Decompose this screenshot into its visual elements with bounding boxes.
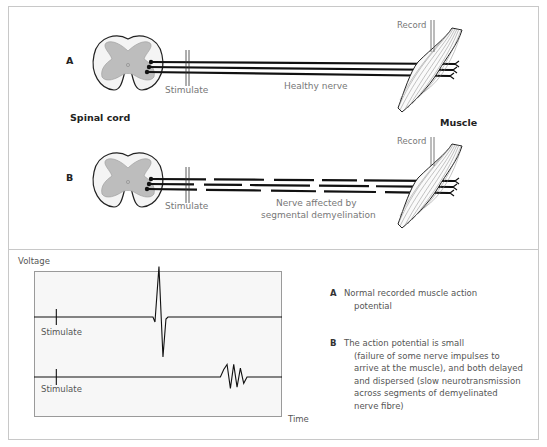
legend-b-line2: (failure of some nerve impulses to <box>354 350 523 363</box>
legend-key-b: B <box>330 337 336 350</box>
stimulate-label-trace-b: Stimulate <box>41 384 82 394</box>
legend-b-line6: nerve fibre) <box>354 400 523 413</box>
legend-a-line2: potential <box>354 300 477 313</box>
legend-b-line3: arrive at the muscle), and both delayed <box>354 362 523 375</box>
legend-b-line1: The action potential is small <box>344 338 464 348</box>
stimulate-label-trace-a: Stimulate <box>41 327 82 337</box>
legend-b-line5: across segments of demyelinated <box>354 387 523 400</box>
legend-item-b: B The action potential is small (failure… <box>330 337 523 412</box>
x-axis-label: Time <box>288 414 309 424</box>
legend-item-a: A Normal recorded muscle action potentia… <box>330 287 477 312</box>
legend-a-line1: Normal recorded muscle action <box>344 288 477 298</box>
trace-a-line <box>34 267 282 357</box>
legend-key-a: A <box>330 287 337 300</box>
legend-b-line4: and dispersed (slow neurotransmission <box>354 375 523 388</box>
